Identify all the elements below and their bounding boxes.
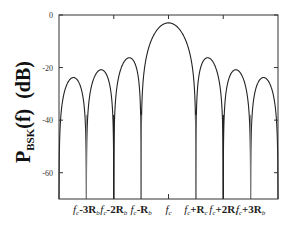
y-label-subscript: BSK: [24, 128, 36, 150]
x-tick-label: fc-2Rb: [100, 203, 127, 217]
y-axis-label: PBSK(f) (dB): [12, 61, 36, 163]
plot-frame: [59, 15, 278, 199]
y-label-main: P: [12, 151, 34, 163]
x-tick-label: fc+3Rb: [236, 203, 266, 217]
y-tick-label: -60: [42, 169, 53, 178]
x-axis-ticks: fc-3Rbfc-2Rbfc-Rbfcfc+Rcfc+2Rlfc+3Rb: [73, 15, 266, 217]
x-tick-label: fc-Rb: [130, 203, 152, 217]
y-tick-label: 0: [49, 11, 53, 20]
y-label-rest: (f) (dB): [12, 61, 35, 129]
x-tick-label: fc-3Rb: [73, 203, 100, 217]
y-tick-label: -20: [42, 64, 53, 73]
psd-curve: [59, 23, 278, 199]
y-tick-label: -40: [42, 116, 53, 125]
x-tick-label: fc+Rc: [184, 203, 208, 217]
psd-chart: 0-20-40-60 fc-3Rbfc-2Rbfc-Rbfcfc+Rcfc+2R…: [0, 0, 294, 225]
y-axis-ticks: 0-20-40-60: [42, 11, 278, 178]
y-axis-label-text: PBSK(f) (dB): [12, 61, 36, 163]
curve-layer: [59, 23, 278, 199]
x-tick-label: fc+2Rl: [209, 203, 237, 217]
x-tick-label: fc: [165, 203, 172, 217]
